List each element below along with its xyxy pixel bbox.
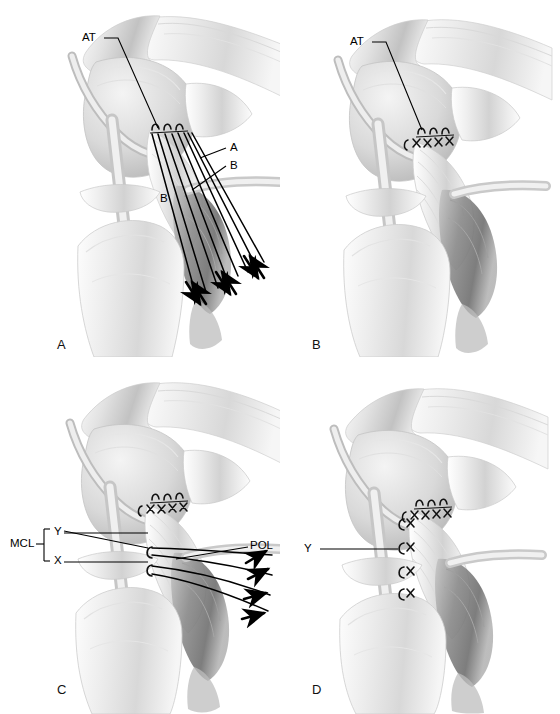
panel-c-artwork bbox=[0, 357, 280, 714]
label-suture-b-left: B bbox=[160, 193, 168, 205]
label-pol: POL bbox=[250, 540, 273, 552]
label-suture-b-right: B bbox=[230, 160, 238, 172]
panel-d-artwork bbox=[280, 357, 560, 714]
label-mcl-y: Y bbox=[54, 526, 62, 538]
panel-a-artwork bbox=[0, 0, 280, 357]
panel-a: AT A B B A bbox=[0, 0, 280, 357]
panel-letter-a: A bbox=[57, 337, 66, 352]
panel-c: POL MCL Y X C bbox=[0, 357, 280, 714]
label-mcl-y: Y bbox=[304, 543, 312, 555]
figure-container: AT A B B A bbox=[0, 0, 560, 714]
panel-letter-c: C bbox=[57, 682, 67, 697]
label-at: AT bbox=[82, 32, 96, 44]
label-at: AT bbox=[350, 36, 364, 48]
panel-d: Y D bbox=[280, 357, 560, 714]
label-mcl: MCL bbox=[10, 538, 34, 550]
panel-letter-b: B bbox=[312, 337, 321, 352]
panel-letter-d: D bbox=[312, 682, 322, 697]
label-mcl-x: X bbox=[54, 555, 62, 567]
panel-b: AT B bbox=[280, 0, 560, 357]
panel-b-artwork bbox=[280, 0, 560, 357]
label-suture-a: A bbox=[230, 142, 238, 154]
